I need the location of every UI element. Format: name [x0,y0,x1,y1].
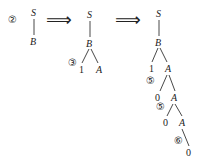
derives-arrow-2: ⟹ [115,9,141,30]
edge [182,129,189,146]
node-a2: A [170,92,178,103]
node-s: S [87,9,92,20]
node-s: S [156,8,161,19]
node-1: 1 [79,64,84,75]
step-marker-6: ⑥ [174,135,183,146]
edge [160,48,167,62]
edge [152,48,158,62]
edge [82,49,89,63]
node-0b: 0 [163,117,168,128]
tree-1: ② S B [8,7,36,47]
edge [175,104,182,116]
node-a: A [95,64,103,75]
node-b: B [86,38,92,49]
node-1: 1 [149,63,154,74]
edge [160,75,167,91]
node-s: S [31,7,36,18]
step-marker-5b: ⑤ [156,101,165,112]
step-marker-3: ③ [68,57,77,68]
step-marker-5a: ⑤ [146,75,155,86]
derivation-tree-diagram: ② S B ⟹ S B ③ 1 A ⟹ S B 1 A ⑤ 0 A ⑤ 0 A … [0,0,209,162]
node-0c: 0 [186,147,191,158]
edge [91,49,98,63]
edge [169,75,175,91]
edge [167,104,173,116]
node-a1: A [164,63,172,74]
node-b: B [155,37,161,48]
tree-3: S B 1 A ⑤ 0 A ⑤ 0 A ⑥ 0 [146,8,191,158]
tree-2: S B ③ 1 A [68,9,103,75]
node-a3: A [178,117,186,128]
step-marker-2: ② [8,14,17,25]
derives-arrow-1: ⟹ [46,9,72,30]
node-b: B [30,36,36,47]
